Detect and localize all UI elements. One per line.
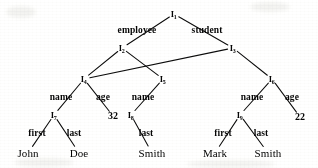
node-id-subscript: 9: [240, 114, 243, 120]
node-id-subscript: 4: [84, 78, 87, 84]
tree-edge: [89, 51, 118, 75]
tree-leaf-value: Smith: [255, 148, 282, 159]
tree-edge-label: last: [254, 129, 269, 139]
tree-edge-label: employee: [118, 26, 157, 36]
tree-leaf-value: Mark: [203, 148, 227, 159]
tree-edges: [0, 0, 318, 168]
tree-edge-label: name: [132, 93, 155, 103]
tree-edge-label: first: [214, 129, 231, 139]
tree-edge-label: age: [285, 93, 299, 103]
tree-node-i5: I5: [160, 75, 167, 84]
tree-leaf-value: 22: [295, 112, 305, 122]
node-id-subscript: 2: [122, 47, 125, 53]
tree-node-i7: I7: [51, 111, 58, 120]
tree-leaf-value: 32: [108, 111, 118, 121]
tree-edge-label: name: [50, 93, 73, 103]
tree-edge: [90, 49, 228, 78]
tree-node-i9: I9: [237, 111, 244, 120]
node-id-subscript: 8: [131, 114, 134, 120]
node-id-subscript: 1: [174, 13, 177, 19]
tree-node-i3: I3: [230, 44, 237, 53]
node-id-subscript: 7: [54, 114, 57, 120]
tree-node-i4: I4: [81, 75, 88, 84]
tree-edge-label: last: [67, 129, 82, 139]
tree-edge: [126, 51, 158, 75]
tree-diagram-canvas: I1I2I3I4I5I6I7I8I93222JohnDoeSmithMarkSm…: [0, 0, 318, 168]
tree-edge-label: age: [96, 93, 110, 103]
tree-leaf-value: Doe: [70, 148, 89, 159]
tree-edge-label: first: [28, 129, 45, 139]
tree-node-i6: I6: [269, 75, 276, 84]
tree-edge: [237, 51, 267, 75]
tree-node-i1: I1: [171, 10, 178, 19]
tree-node-i2: I2: [119, 44, 126, 53]
tree-leaf-value: Smith: [139, 148, 166, 159]
node-id-subscript: 3: [233, 47, 236, 53]
tree-leaf-value: John: [17, 148, 38, 159]
node-id-subscript: 6: [272, 78, 275, 84]
tree-edge-label: name: [241, 93, 264, 103]
node-id-subscript: 5: [163, 78, 166, 84]
tree-edge-label: last: [139, 129, 154, 139]
tree-edge-label: student: [192, 26, 223, 36]
tree-node-i8: I8: [128, 111, 135, 120]
